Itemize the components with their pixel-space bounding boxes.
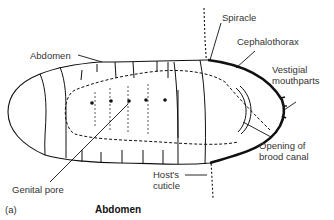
label-opening-line1: Opening of: [259, 140, 309, 151]
label-opening-of-brood-canal: Opening of brood canal: [259, 140, 309, 162]
label-hosts-cuticle: Host's cuticle: [153, 169, 180, 191]
figure-caption: Abdomen: [95, 204, 141, 215]
label-cephalothorax: Cephalothorax: [237, 36, 299, 47]
label-host-line1: Host's: [153, 169, 180, 180]
label-vestigial-line1: Vestigial: [272, 64, 320, 75]
body-outline: [8, 60, 284, 164]
label-vestigial-line2: mouthparts: [272, 75, 320, 86]
label-spiracle: Spiracle: [222, 12, 256, 23]
label-abdomen: Abdomen: [30, 50, 71, 61]
label-vestigial-mouthparts: Vestigial mouthparts: [272, 64, 320, 86]
label-host-line2: cuticle: [153, 180, 180, 191]
label-genital-pore: Genital pore: [12, 184, 64, 195]
panel-label: (a): [5, 204, 17, 215]
label-opening-line2: brood canal: [259, 151, 309, 162]
